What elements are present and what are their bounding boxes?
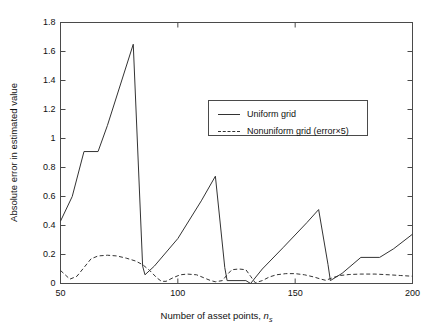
y-tick-label: 1.6	[30, 46, 56, 56]
x-axis-label-main: Number of asset points,	[161, 310, 264, 321]
legend-entry[interactable]: Nonuniform grid (error×5)	[218, 124, 349, 137]
y-tick-label: 1	[30, 133, 56, 143]
x-tick-label: 50	[41, 288, 81, 298]
plot-area	[0, 0, 433, 335]
x-tick-label: 150	[275, 288, 315, 298]
legend-entry-label: Uniform grid	[247, 109, 296, 119]
x-axis-label: Number of asset points, ns	[0, 310, 433, 323]
y-tick-label: 0	[30, 278, 56, 288]
legend-line-glyph	[218, 131, 240, 132]
legend-dashed-line-icon	[218, 126, 240, 136]
legend-entry-label: Nonuniform grid (error×5)	[247, 126, 349, 136]
y-tick-label: 0.8	[30, 162, 56, 172]
legend-line-glyph	[218, 114, 240, 115]
y-tick-label: 1.8	[30, 17, 56, 27]
x-tick-label: 100	[158, 288, 198, 298]
x-tick-label: 200	[393, 288, 433, 298]
series-line-2	[61, 255, 413, 283]
y-tick-label: 1.4	[30, 75, 56, 85]
legend-entry[interactable]: Uniform grid	[218, 107, 296, 120]
series-line-1	[61, 44, 413, 283]
legend-solid-line-icon	[218, 109, 240, 119]
y-tick-label: 1.2	[30, 104, 56, 114]
legend: Uniform gridNonuniform grid (error×5)	[208, 100, 368, 136]
y-tick-label: 0.6	[30, 191, 56, 201]
y-tick-label: 0.2	[30, 249, 56, 259]
plot-frame	[61, 23, 413, 284]
y-tick-label: 0.4	[30, 220, 56, 230]
figure-canvas: Absolute error in estimated value Number…	[0, 0, 433, 335]
x-axis-label-subscript: s	[269, 316, 273, 323]
